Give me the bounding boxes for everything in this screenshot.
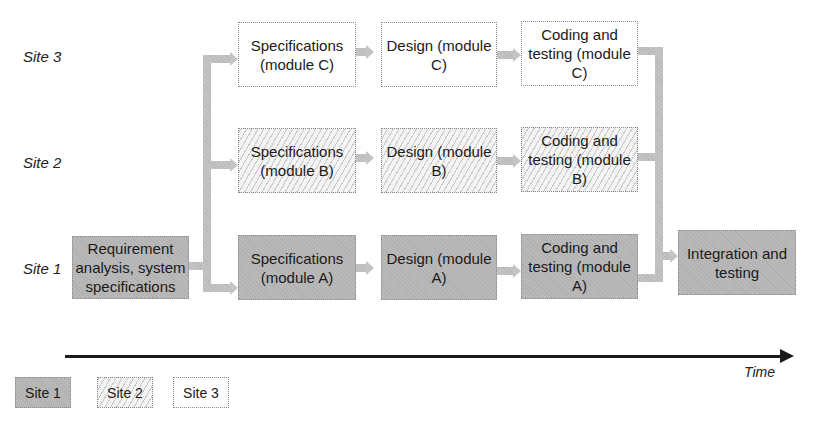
connector-to-spec-a: [203, 284, 230, 292]
arrowhead-design-a: [366, 261, 374, 275]
connector-design-b-code-b: [497, 157, 513, 165]
arrowhead-spec-c: [230, 52, 238, 66]
connector-spec-a-design-a: [356, 264, 366, 272]
arrowhead-integration: [670, 249, 678, 263]
connector-spec-c-design-c: [356, 48, 366, 56]
site-2-label: Site 2: [23, 154, 61, 171]
design-module-c-box: Design (module C): [381, 22, 497, 87]
connector-spec-b-design-b: [356, 154, 366, 162]
connector-to-spec-c: [203, 55, 230, 63]
coding-testing-module-c-box: Coding and testing (module C): [521, 21, 638, 86]
design-module-b-box: Design (module B): [381, 128, 497, 193]
site-1-label: Site 1: [23, 260, 61, 277]
specifications-module-c-box: Specifications (module C): [238, 22, 356, 87]
arrowhead-code-a: [513, 264, 521, 278]
time-axis-label: Time: [744, 364, 775, 380]
arrowhead-code-c: [513, 48, 521, 62]
site-3-label: Site 3: [23, 48, 61, 65]
design-module-a-box: Design (module A): [381, 235, 497, 300]
specifications-module-b-box: Specifications (module B): [238, 128, 356, 193]
connector-to-spec-b: [203, 161, 230, 169]
specifications-module-a-box: Specifications (module A): [238, 235, 356, 300]
legend-site-1: Site 1: [15, 377, 71, 408]
arrowhead-code-b: [513, 154, 521, 168]
connector-merge-vertical: [655, 47, 663, 282]
connector-split-vertical: [203, 55, 211, 292]
legend-site-2: Site 2: [97, 377, 153, 408]
connector-design-c-code-c: [497, 51, 513, 59]
arrowhead-spec-b: [230, 158, 238, 172]
arrowhead-design-b: [366, 151, 374, 165]
coding-testing-module-a-box: Coding and testing (module A): [521, 234, 638, 299]
legend-site-3: Site 3: [173, 377, 229, 408]
integration-testing-box: Integration and testing: [678, 230, 796, 295]
arrowhead-design-c: [366, 45, 374, 59]
time-axis-line: [65, 355, 783, 358]
connector-to-integration: [655, 252, 670, 260]
coding-testing-module-b-box: Coding and testing (module B): [521, 127, 638, 192]
requirement-analysis-box: Requirement analysis, system specificati…: [72, 236, 189, 299]
connector-design-a-code-a: [497, 267, 513, 275]
time-axis-arrowhead: [780, 349, 794, 363]
arrowhead-spec-a: [230, 281, 238, 295]
